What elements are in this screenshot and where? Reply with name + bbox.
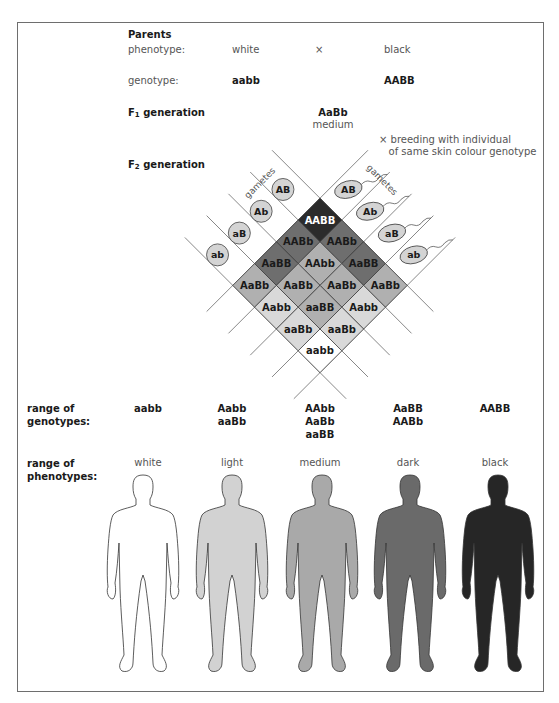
human-figures <box>0 0 559 703</box>
human-figure-medium <box>286 475 358 672</box>
human-figure-black <box>462 475 534 672</box>
human-figure-light <box>196 475 268 672</box>
human-figure-white <box>107 475 179 672</box>
human-figure-dark <box>374 475 446 672</box>
